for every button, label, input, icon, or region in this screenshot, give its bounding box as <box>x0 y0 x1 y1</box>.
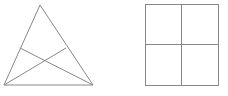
geometry-figures-canvas <box>0 0 228 96</box>
canvas-background <box>0 0 228 96</box>
